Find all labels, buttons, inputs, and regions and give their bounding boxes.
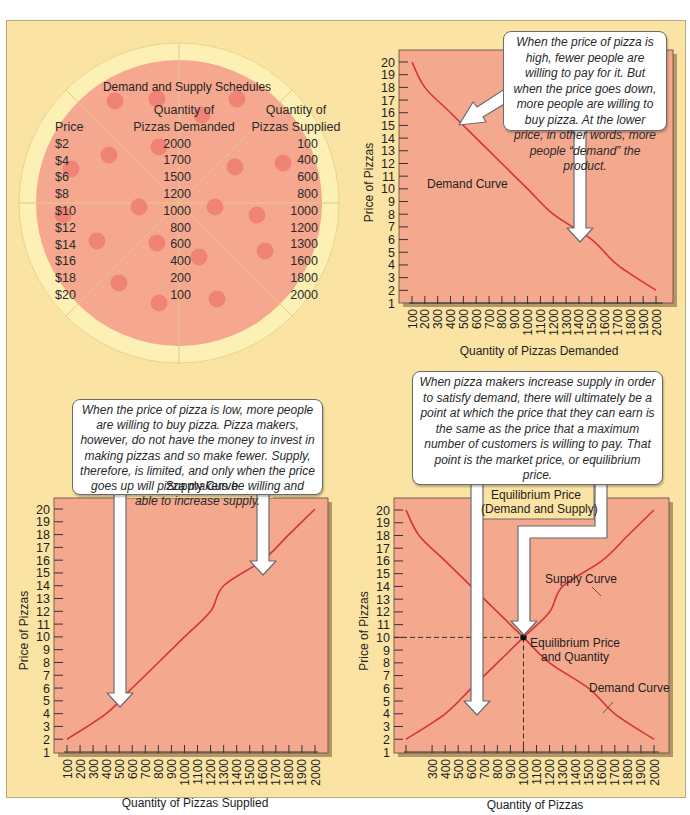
schedule-price-cell: $16: [55, 253, 95, 270]
schedule-price-cell: $6: [55, 169, 95, 186]
schedule-price-column: Price $2$4$6$8$10$12$14$16$18$20: [55, 119, 95, 304]
y-axis-title: Price of Pizzas: [17, 591, 31, 670]
schedule-price-cell: $18: [55, 270, 95, 287]
schedule-demanded-cell: 1500: [129, 169, 191, 186]
x-tick-label: 1100: [530, 759, 544, 785]
y-tick-label: 11: [377, 618, 390, 632]
schedule-demanded-column: Quantity of Pizzas Demanded 200017001500…: [129, 102, 239, 304]
schedule-demanded-cell: 400: [129, 253, 191, 270]
y-tick-label: 17: [381, 94, 395, 108]
x-tick-label: 1200: [543, 759, 557, 786]
x-tick-label: 100: [61, 759, 75, 779]
schedule-price-cell: $20: [55, 287, 95, 304]
supplied-header-2: Pizzas Supplied: [247, 119, 345, 136]
schedule-supplied-cell: 1200: [247, 220, 318, 237]
x-tick-label: 1300: [217, 759, 231, 786]
y-tick-label: 5: [43, 694, 50, 708]
x-tick-label: 600: [126, 759, 140, 779]
y-tick-label: 3: [388, 271, 395, 285]
y-tick-label: 9: [383, 644, 390, 658]
y-tick-label: 18: [381, 81, 395, 95]
x-tick-label: 800: [152, 759, 166, 779]
y-tick-label: 3: [43, 720, 50, 734]
x-tick-label: 300: [426, 759, 440, 779]
y-tick-label: 19: [376, 516, 390, 530]
y-tick-label: 19: [381, 68, 395, 82]
supplied-header-1: Quantity of: [247, 102, 345, 119]
x-tick-label: 900: [165, 759, 179, 779]
equilibrium-x-axis-label: Quantity of Pizzas: [395, 798, 675, 812]
y-tick-label: 8: [388, 208, 395, 222]
x-tick-label: 2000: [650, 309, 664, 336]
y-tick-label: 12: [381, 157, 395, 171]
y-tick-label: 1: [383, 746, 390, 760]
y-tick-label: 16: [36, 554, 50, 568]
y-tick-label: 4: [43, 707, 50, 721]
schedule-demanded-cell: 1000: [129, 203, 191, 220]
x-tick-label: 1600: [256, 759, 270, 786]
y-tick-label: 19: [36, 515, 50, 529]
y-tick-label: 3: [383, 720, 390, 734]
x-tick-label: 400: [439, 759, 453, 779]
x-tick-label: 600: [465, 759, 479, 779]
x-tick-label: 1100: [191, 759, 205, 785]
y-axis-title: Price of Pizzas: [362, 143, 376, 222]
x-tick-label: 400: [100, 759, 114, 779]
supply-x-axis-label: Quantity of Pizzas Supplied: [55, 796, 335, 810]
y-tick-label: 7: [43, 669, 50, 683]
schedule-price-cell: $2: [55, 136, 95, 153]
equilibrium-callout: When pizza makers increase supply in ord…: [412, 371, 663, 485]
figure-panel: 1234567891011121314151617181920Price of …: [6, 20, 686, 798]
x-tick-label: 700: [478, 759, 492, 779]
x-tick-label: 1800: [621, 759, 635, 786]
y-tick-label: 7: [383, 669, 390, 683]
y-tick-label: 9: [388, 195, 395, 209]
x-tick-label: 1000: [517, 759, 531, 786]
x-tick-label: 900: [504, 759, 518, 779]
y-tick-label: 6: [383, 682, 390, 696]
demand-curve-label: Demand Curve: [427, 177, 508, 191]
schedule-price-cell: $4: [55, 153, 95, 170]
y-tick-label: 14: [381, 132, 395, 146]
y-tick-label: 6: [388, 233, 395, 247]
y-tick-label: 10: [381, 182, 395, 196]
schedule-supplied-cell: 400: [247, 152, 318, 169]
schedule-supplied-cell: 1600: [247, 253, 318, 270]
schedule-demanded-cell: 200: [129, 270, 191, 287]
x-tick-label: 1900: [634, 759, 648, 786]
y-tick-label: 17: [376, 542, 390, 556]
schedule-supplied-cell: 1300: [247, 236, 318, 253]
schedule-price-cell: $8: [55, 186, 95, 203]
y-tick-label: 14: [376, 580, 390, 594]
schedule-title: Demand and Supply Schedules: [97, 80, 277, 94]
schedule-supplied-cell: 1000: [247, 203, 318, 220]
schedule-supplied-column: Quantity of Pizzas Supplied 100400600800…: [247, 102, 345, 304]
schedule-supplied-cell: 1800: [247, 270, 318, 287]
y-tick-label: 14: [36, 579, 50, 593]
demanded-header-2: Pizzas Demanded: [129, 119, 239, 136]
demanded-header-1: Quantity of: [129, 102, 239, 119]
x-tick-label: 2000: [309, 759, 323, 786]
x-tick-label: 700: [139, 759, 153, 779]
schedule-supplied-cell: 2000: [247, 287, 318, 304]
y-tick-label: 20: [381, 56, 395, 70]
y-tick-label: 2: [388, 284, 395, 298]
y-tick-label: 1: [43, 746, 50, 760]
x-tick-label: 1500: [243, 759, 257, 786]
y-tick-label: 11: [382, 170, 395, 184]
y-tick-label: 7: [388, 220, 395, 234]
x-tick-label: 1000: [178, 759, 192, 786]
y-tick-label: 5: [383, 695, 390, 709]
y-tick-label: 16: [381, 106, 395, 120]
x-tick-label: 1800: [282, 759, 296, 786]
eq-demand-curve-label: Demand Curve: [589, 681, 670, 695]
equilibrium-point-label-2: and Quantity: [529, 650, 621, 664]
schedule-price-cell: $14: [55, 237, 95, 254]
supply-chart: 1234567891011121314151617181920Price of …: [17, 498, 332, 786]
x-tick-label: 1700: [608, 759, 622, 786]
schedule-demanded-cell: 1200: [129, 186, 191, 203]
schedule-demanded-cell: 600: [129, 236, 191, 253]
y-tick-label: 12: [376, 605, 390, 619]
y-tick-label: 18: [376, 529, 390, 543]
y-tick-label: 4: [388, 258, 395, 272]
